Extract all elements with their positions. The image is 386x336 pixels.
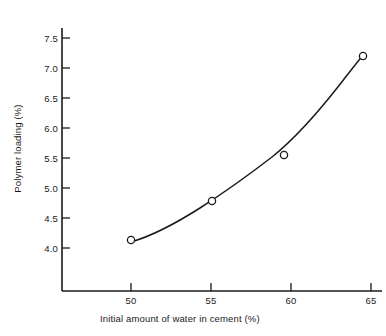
x-tick-label-65: 65 [359, 295, 383, 306]
y-tick-label-6.0: 6.0 [28, 123, 58, 134]
x-tick-label-60: 60 [279, 295, 303, 306]
y-tick-label-6.5: 6.5 [28, 93, 58, 104]
y-tick-label-5.5: 5.5 [28, 153, 58, 164]
y-axis-title-text: Polymer loading (%) [12, 104, 23, 192]
x-tick-label-50: 50 [119, 295, 143, 306]
y-axis-ticks [62, 38, 70, 248]
x-axis-ticks [131, 283, 371, 291]
plot-area [0, 0, 386, 336]
data-point-4 [359, 52, 366, 59]
y-tick-label-4.0: 4.0 [28, 243, 58, 254]
chart-figure: Polymer loading (%) 7.5 7.0 6.5 6.0 5.5 … [0, 0, 386, 336]
data-point-3 [280, 151, 287, 158]
y-axis-title: Polymer loading (%) [6, 48, 28, 248]
x-tick-label-55: 55 [199, 295, 223, 306]
data-point-1 [127, 236, 134, 243]
data-points [127, 52, 366, 243]
y-tick-label-7.5: 7.5 [28, 33, 58, 44]
y-tick-label-7.0: 7.0 [28, 63, 58, 74]
data-point-2 [208, 197, 215, 204]
fit-curve [131, 54, 364, 242]
x-axis-title: Initial amount of water in cement (%) [100, 313, 386, 324]
y-tick-label-4.5: 4.5 [28, 213, 58, 224]
y-tick-label-5.0: 5.0 [28, 183, 58, 194]
